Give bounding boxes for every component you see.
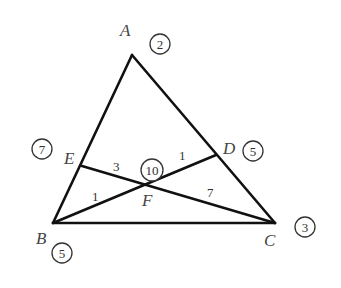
mass-f: 10 xyxy=(141,159,163,181)
segment-label-fd: 1 xyxy=(179,148,186,163)
mass-b: 5 xyxy=(52,243,72,263)
mass-value-b: 5 xyxy=(59,246,66,261)
vertex-label-c: C xyxy=(264,231,276,250)
segment-label-ef: 3 xyxy=(113,159,120,174)
segment-label-fc: 7 xyxy=(207,185,214,200)
segment-label-fb: 1 xyxy=(92,189,99,204)
mass-a: 2 xyxy=(150,34,170,54)
cevian-CE xyxy=(82,166,275,223)
mass-value-f: 10 xyxy=(146,163,159,178)
mass-value-e: 7 xyxy=(39,142,46,157)
side-AC xyxy=(132,55,275,223)
vertex-label-b: B xyxy=(36,229,47,248)
mass-value-c: 3 xyxy=(302,220,309,235)
triangle-diagram: A B C D E F 3 1 1 7 2 5 3 5 7 10 xyxy=(0,0,341,288)
vertex-label-d: D xyxy=(222,139,236,158)
mass-c: 3 xyxy=(295,217,315,237)
vertex-label-e: E xyxy=(63,149,75,168)
mass-value-a: 2 xyxy=(157,37,164,52)
cevian-BD xyxy=(53,155,216,223)
mass-value-d: 5 xyxy=(250,144,257,159)
vertex-label-f: F xyxy=(141,191,153,210)
mass-d: 5 xyxy=(243,141,263,161)
mass-e: 7 xyxy=(32,139,52,159)
vertex-label-a: A xyxy=(119,21,131,40)
